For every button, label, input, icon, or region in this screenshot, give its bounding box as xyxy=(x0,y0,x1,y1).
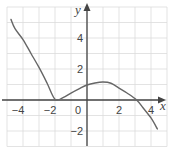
y-tick-label: −2 xyxy=(70,125,83,137)
function-curve xyxy=(11,19,157,129)
axes xyxy=(2,3,166,146)
y-tick-label: 4 xyxy=(77,32,83,44)
x-tick-label: −2 xyxy=(44,104,57,116)
x-tick-label: 0 xyxy=(75,104,81,116)
x-axis-label: x xyxy=(159,98,166,113)
x-tick-label: 2 xyxy=(116,104,122,116)
x-tick-labels: −4−2024 xyxy=(12,104,154,116)
x-tick-label: −4 xyxy=(12,104,25,116)
y-tick-label: 2 xyxy=(77,63,83,75)
y-axis-label: y xyxy=(73,2,81,17)
function-graph: −4−2024 42−2 x y xyxy=(0,0,172,152)
